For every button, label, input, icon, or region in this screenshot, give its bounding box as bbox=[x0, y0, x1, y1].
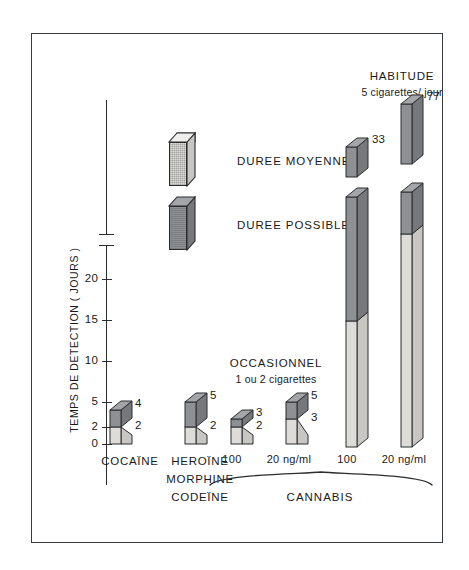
occasionnel-heading: OCCASIONNEL 1 ou 2 cigarettes bbox=[206, 355, 346, 387]
axis-break-mark-lower bbox=[99, 245, 114, 246]
habitude-heading-main: HABITUDE bbox=[332, 68, 469, 85]
bar-cannabis-occ-100: 3 2 bbox=[226, 411, 266, 447]
bar-cocaine-value-moyenne: 2 bbox=[135, 420, 141, 432]
bar-cannabis-hab-20-value-possible: 77 bbox=[427, 91, 440, 103]
bar-cannabis-occ-20-value-possible: 5 bbox=[311, 390, 317, 402]
bar-cannabis-hab-20-column bbox=[396, 184, 436, 447]
chart-figure: 20 15 10 5 2 0 TEMPS DE DETECTION ( JOUR… bbox=[0, 0, 469, 570]
category-label-heroine-line3: CODEÏNE bbox=[150, 489, 250, 506]
y-axis-upper-segment bbox=[106, 100, 107, 234]
bar-cocaine: 4 2 bbox=[105, 402, 145, 447]
occasionnel-heading-main: OCCASIONNEL bbox=[206, 355, 346, 372]
group-label-cannabis: CANNABIS bbox=[240, 491, 400, 503]
y-tick-15 bbox=[102, 320, 112, 321]
bar-heroine-value-moyenne: 2 bbox=[210, 420, 216, 432]
chart-frame: 20 15 10 5 2 0 TEMPS DE DETECTION ( JOUR… bbox=[31, 33, 443, 543]
axis-break-mark-upper bbox=[99, 234, 114, 235]
bar-heroine: 5 2 bbox=[180, 394, 220, 447]
bar-cannabis-hab-100-cap: 33 bbox=[341, 139, 381, 179]
legend-label-duree-possible: DUREE POSSIBLE bbox=[237, 219, 350, 231]
cannabis-brace bbox=[208, 471, 438, 487]
bar-cannabis-occ-20: 5 3 bbox=[281, 394, 321, 447]
bar-cannabis-hab-100-column bbox=[341, 189, 381, 447]
bar-cocaine-value-possible: 4 bbox=[135, 398, 141, 410]
y-tick-20 bbox=[102, 279, 112, 280]
concentration-label-hab-20: 20 ng/ml bbox=[364, 453, 444, 465]
legend-swatch-duree-possible bbox=[169, 197, 203, 251]
bar-cannabis-hab-20-cap: 77 bbox=[396, 96, 436, 166]
legend-swatch-side-outline-2 bbox=[169, 197, 209, 257]
bar-heroine-value-possible: 5 bbox=[210, 390, 216, 402]
bar-cannabis-occ-100-value-possible: 3 bbox=[256, 407, 262, 419]
bar-cannabis-hab-100-value-possible: 33 bbox=[372, 134, 385, 146]
bar-cannabis-occ-20-value-moyenne: 3 bbox=[311, 412, 317, 424]
y-axis-label: TEMPS DE DETECTION ( JOURS ) bbox=[68, 240, 80, 440]
legend-label-duree-moyenne: DUREE MOYENNE bbox=[237, 155, 350, 167]
y-tick-10 bbox=[102, 361, 112, 362]
occasionnel-heading-sub: 1 ou 2 cigarettes bbox=[206, 372, 346, 387]
legend-swatch-side-outline-1 bbox=[169, 133, 209, 193]
bar-cannabis-occ-100-value-moyenne: 2 bbox=[256, 420, 262, 432]
legend-swatch-duree-moyenne bbox=[169, 133, 203, 187]
